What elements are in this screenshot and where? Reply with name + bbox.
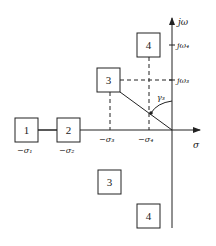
s2-label: −σ₂ xyxy=(59,146,74,155)
jw4-label: jω₄ xyxy=(175,41,189,50)
s-plane-diagram: 1 2 3 4 3 4 jω σ jω₄ jω₃ −σ₁ −σ₂ −σ₃ −σ₄… xyxy=(0,0,216,246)
jw-axis-label: jω xyxy=(176,17,189,27)
jw3-label: jω₃ xyxy=(175,76,189,85)
box-3-upper: 3 xyxy=(97,68,120,92)
angle-arc-gamma3 xyxy=(151,101,172,113)
box-3-lower: 3 xyxy=(98,170,121,194)
box-4-upper: 4 xyxy=(137,33,160,57)
box-2-label: 2 xyxy=(66,124,72,136)
box-3-upper-label: 3 xyxy=(106,74,112,86)
sigma-axis-label: σ xyxy=(193,140,200,150)
box-1: 1 xyxy=(15,118,38,142)
box-3-lower-label: 3 xyxy=(107,176,113,188)
box-4-upper-label: 4 xyxy=(146,39,152,51)
s3-label: −σ₃ xyxy=(99,135,114,144)
box-4-lower-label: 4 xyxy=(146,210,152,222)
s1-label: −σ₁ xyxy=(17,146,32,155)
gamma3-label: γ₃ xyxy=(157,93,165,102)
box-2: 2 xyxy=(57,118,80,142)
box-1-label: 1 xyxy=(24,124,30,136)
s4-label: −σ₄ xyxy=(138,135,153,144)
box-4-lower: 4 xyxy=(137,204,160,228)
